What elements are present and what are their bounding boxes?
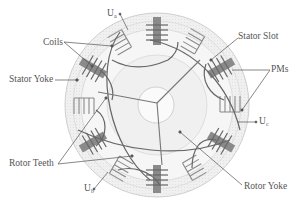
- label-coils: Coils: [43, 38, 63, 48]
- label-phase-c: Uc: [259, 117, 269, 127]
- label-stator-yoke: Stator Yoke: [9, 75, 53, 85]
- label-rotor-yoke: Rotor Yoke: [244, 182, 287, 192]
- label-stator-slot: Stator Slot: [238, 32, 278, 42]
- label-phase-a: Ua: [107, 9, 117, 19]
- shaft: [138, 87, 174, 123]
- label-pms: PMs: [271, 65, 288, 75]
- label-rotor-teeth: Rotor Teeth: [9, 159, 54, 169]
- label-phase-b: Ub: [84, 184, 94, 194]
